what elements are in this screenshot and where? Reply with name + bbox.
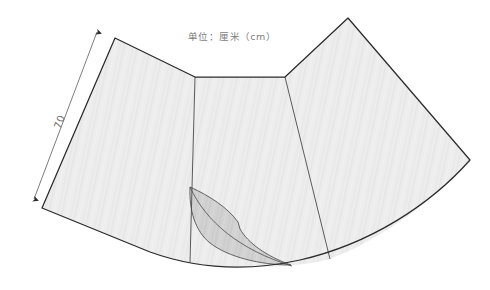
geometry-figure-svg: 70 单位：厘米（cm） [0, 0, 490, 290]
left-panel [42, 38, 195, 262]
unit-caption: 单位：厘米（cm） [188, 31, 276, 42]
fan-body-group [42, 18, 470, 267]
figure-container: 70 单位：厘米（cm） [0, 0, 490, 290]
